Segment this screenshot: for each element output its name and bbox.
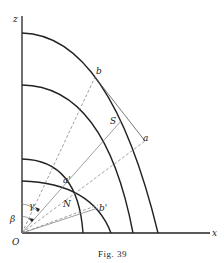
origin-label: O xyxy=(12,237,20,247)
figure-caption: Fig. 39 xyxy=(98,249,127,259)
point-s-label: S xyxy=(110,116,116,126)
point-b-label: b xyxy=(96,66,102,76)
x-axis-label: x xyxy=(212,228,217,238)
point-b-prime-label: b' xyxy=(99,203,107,213)
ray-to-S xyxy=(22,121,121,233)
point-a-label: a xyxy=(143,133,148,143)
figure-diagram: z x O b S a a' N b' γ β Fig. 39 xyxy=(0,0,224,263)
gamma-label: γ xyxy=(29,201,35,211)
z-axis-label: z xyxy=(12,14,18,24)
point-a-prime-label: a' xyxy=(63,175,71,185)
ray-to-a xyxy=(22,141,145,233)
beta-label: β xyxy=(9,214,15,224)
tangent-line xyxy=(95,77,145,141)
point-n-label: N xyxy=(62,199,72,209)
